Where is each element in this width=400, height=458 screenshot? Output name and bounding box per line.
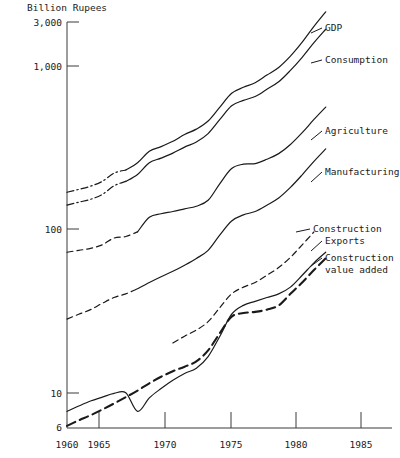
chart-container: Billion Rupees 3,000 1,000 100 10 6 1960… [0, 0, 400, 458]
y-axis-title: Billion Rupees [27, 2, 107, 13]
series-curve-manufacturing [138, 149, 326, 289]
leader-consumption [311, 60, 322, 63]
series-label-gdp: GDP [325, 22, 342, 33]
series-label-consumption: Consumption [325, 54, 388, 65]
series-curve-gdp-lead [67, 170, 126, 192]
y-tick-label-6: 6 [56, 422, 62, 433]
y-tick-label-10: 10 [51, 388, 63, 399]
line-chart-plot: Billion Rupees 3,000 1,000 100 10 6 1960… [0, 0, 400, 458]
y-tick-label-3000: 3,000 [33, 17, 62, 28]
leader-exports [311, 241, 322, 251]
series-label-manufacturing: Manufacturing [325, 166, 399, 177]
leader-construction [296, 229, 310, 232]
series-curve-consumption [126, 29, 326, 181]
series-curve-gdp [126, 12, 326, 170]
y-tick-label-1000: 1,000 [33, 61, 62, 72]
leader-manufacturing [311, 172, 322, 182]
series-layer [67, 12, 326, 426]
x-tick-label-1965: 1965 [88, 439, 111, 450]
series-curve-exports [67, 252, 326, 411]
series-curve-construction-value-added [67, 258, 326, 425]
series-label-construction-value-added-line2: value added [325, 264, 388, 275]
series-curve-agriculture [138, 107, 326, 232]
series-curve-agriculture-lead [67, 232, 138, 252]
series-label-agriculture: Agriculture [325, 125, 388, 136]
series-curve-consumption-lead [67, 181, 126, 205]
x-tick-label-1960: 1960 [56, 439, 79, 450]
series-curve-manufacturing-lead [67, 289, 138, 319]
y-tick-label-100: 100 [45, 224, 62, 235]
leader-agriculture [311, 131, 322, 140]
x-tick-label-1975: 1975 [220, 439, 243, 450]
series-label-exports: Exports [325, 235, 365, 246]
x-tick-label-1980: 1980 [285, 439, 308, 450]
series-label-construction-value-added-line1: Construction [325, 252, 394, 263]
series-label-construction: Construction [313, 223, 382, 234]
x-tick-label-1985: 1985 [350, 439, 373, 450]
x-tick-label-1970: 1970 [154, 439, 177, 450]
series-curve-construction [173, 232, 314, 343]
